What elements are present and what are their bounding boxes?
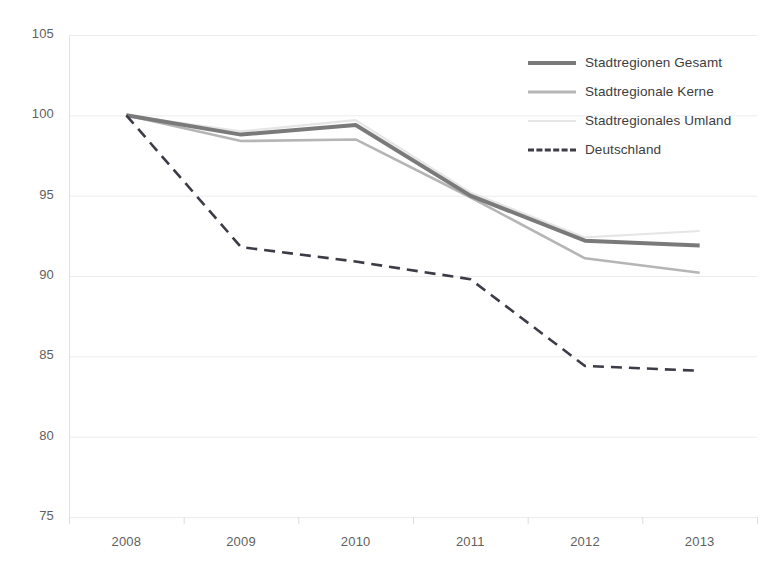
y-tick-label: 105	[12, 26, 54, 41]
x-tick-label: 2009	[201, 534, 281, 549]
legend-swatch-icon	[528, 114, 576, 128]
y-tick-label: 75	[12, 508, 54, 523]
legend-swatch-icon	[528, 143, 576, 157]
legend-item-label: Stadtregionales Umland	[585, 113, 731, 128]
y-tick-label: 100	[12, 106, 54, 121]
y-tick-label: 85	[12, 347, 54, 362]
x-tick-label: 2012	[545, 534, 625, 549]
line-chart: 1051009590858075 20082009201020112012201…	[0, 0, 768, 578]
legend-item[interactable]: Stadtregionen Gesamt	[528, 48, 768, 77]
legend-item-label: Stadtregionen Gesamt	[585, 55, 722, 70]
x-tick-label: 2013	[660, 534, 740, 549]
y-tick-label: 95	[12, 187, 54, 202]
legend-item-label: Deutschland	[585, 142, 661, 157]
legend-item[interactable]: Deutschland	[528, 135, 768, 164]
legend-item-label: Stadtregionale Kerne	[585, 84, 714, 99]
legend-swatch-icon	[528, 56, 576, 70]
legend-item[interactable]: Stadtregionale Kerne	[528, 77, 768, 106]
legend-swatch-icon	[528, 85, 576, 99]
x-tick-marks	[70, 517, 758, 524]
legend-item[interactable]: Stadtregionales Umland	[528, 106, 768, 135]
chart-legend: Stadtregionen GesamtStadtregionale Kerne…	[528, 48, 768, 164]
x-tick-label: 2008	[86, 534, 166, 549]
x-tick-label: 2010	[316, 534, 396, 549]
y-tick-label: 80	[12, 428, 54, 443]
x-tick-label: 2011	[430, 534, 510, 549]
y-tick-label: 90	[12, 267, 54, 282]
